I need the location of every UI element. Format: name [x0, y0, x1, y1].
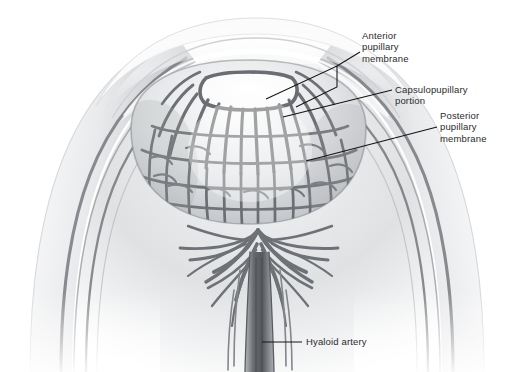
label-anterior-pupillary-membrane: Anterior pupillary membrane — [362, 30, 409, 64]
label-hyaloid-artery: Hyaloid artery — [306, 336, 367, 347]
bottom-fade-overlay-right — [354, 290, 514, 372]
eye-anatomy-illustration — [0, 0, 514, 372]
label-posterior-pupillary-membrane: Posterior pupillary membrane — [440, 110, 487, 144]
lens-highlight — [188, 98, 312, 202]
label-capsulopupillary-portion: Capsulopupillary portion — [395, 84, 468, 107]
bottom-fade-overlay — [0, 290, 160, 372]
